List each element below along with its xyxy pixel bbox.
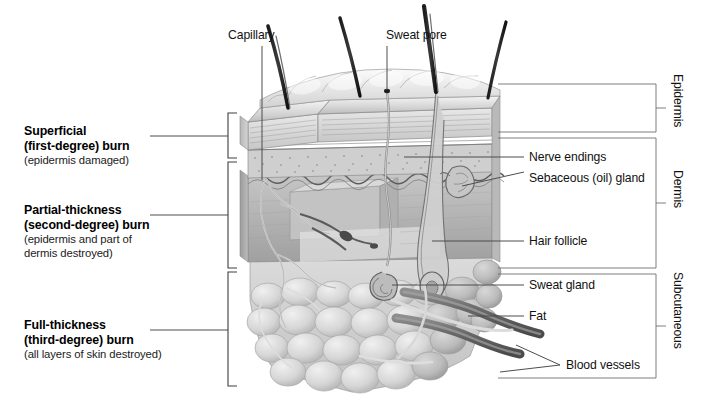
- label-nerve-endings: Nerve endings: [529, 150, 606, 164]
- partial-thickness-title-line2: (second-degree) burn: [24, 218, 149, 233]
- partial-thickness-title-line1: Partial-thickness: [24, 203, 149, 218]
- full-thickness-title-line2: (third-degree) burn: [24, 333, 162, 348]
- callout-partial-thickness-burn: Partial-thickness (second-degree) burn (…: [24, 203, 149, 261]
- partial-thickness-detail-line2: dermis destroyed): [24, 247, 149, 261]
- full-thickness-detail: (all layers of skin destroyed): [24, 348, 162, 362]
- label-sebaceous-gland: Sebaceous (oil) gland: [529, 171, 645, 185]
- label-layer-subcutaneous: Subcutaneous: [671, 272, 685, 349]
- partial-thickness-detail-line1: (epidermis and part of: [24, 233, 149, 247]
- label-hair-follicle: Hair follicle: [529, 234, 587, 248]
- superficial-detail: (epidermis damaged): [24, 154, 130, 168]
- label-layer-dermis: Dermis: [671, 170, 685, 208]
- callout-superficial-burn: Superficial (first-degree) burn (epiderm…: [24, 124, 130, 168]
- superficial-title-line1: Superficial: [24, 124, 130, 139]
- label-sweat-pore: Sweat pore: [386, 28, 447, 42]
- label-capillary: Capillary: [228, 28, 275, 42]
- label-blood-vessels: Blood vessels: [566, 358, 640, 372]
- label-fat: Fat: [529, 309, 546, 323]
- label-layer: Superficial (first-degree) burn (epiderm…: [0, 0, 711, 418]
- skin-burn-depth-figure: Superficial (first-degree) burn (epiderm…: [0, 0, 711, 418]
- label-sweat-gland: Sweat gland: [529, 278, 595, 292]
- callout-full-thickness-burn: Full-thickness (third-degree) burn (all …: [24, 318, 162, 362]
- full-thickness-title-line1: Full-thickness: [24, 318, 162, 333]
- label-layer-epidermis: Epidermis: [671, 74, 685, 127]
- superficial-title-line2: (first-degree) burn: [24, 139, 130, 154]
